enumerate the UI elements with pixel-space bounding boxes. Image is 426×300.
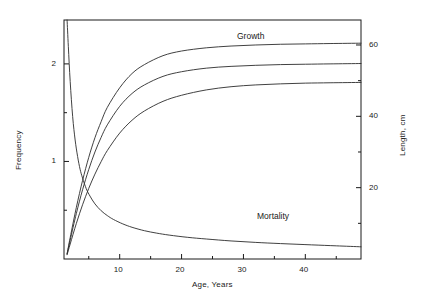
- y-right-tick-label-60: 60: [369, 40, 378, 49]
- y-axis-label-right: Length, cm: [398, 114, 407, 156]
- growth-annotation: Growth: [237, 31, 264, 41]
- x-tick-label-20: 20: [176, 265, 185, 274]
- x-tick-label-40: 40: [299, 265, 308, 274]
- x-tick-label-10: 10: [114, 265, 123, 274]
- x-tick-label-30: 30: [237, 265, 246, 274]
- y-right-tick-label-40: 40: [369, 111, 378, 120]
- y-right-tick-label-20: 20: [369, 183, 378, 192]
- y-left-tick-label-2: 2: [34, 59, 56, 68]
- chart-figure: Frequency Length, cm Age, Years Growth M…: [0, 0, 426, 300]
- y-left-tick-label-1: 1: [34, 156, 56, 165]
- x-axis-label: Age, Years: [192, 280, 233, 289]
- mortality-annotation: Mortality: [257, 211, 289, 221]
- y-axis-label-left: Frequency: [14, 160, 23, 170]
- chart-canvas: [0, 0, 426, 300]
